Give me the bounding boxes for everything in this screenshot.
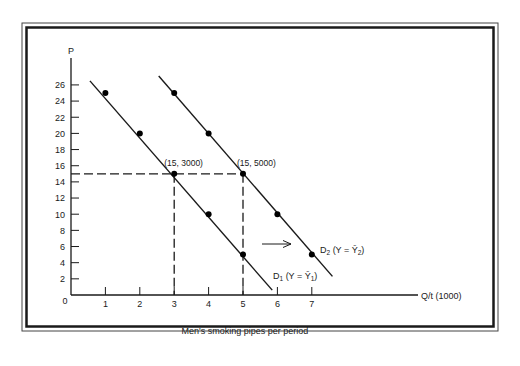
y-tick-label: 12 xyxy=(55,193,65,203)
inner-frame xyxy=(27,28,494,327)
x-tick-label: 4 xyxy=(206,299,211,309)
point-annotation: (15, 3000) xyxy=(164,158,203,168)
d1-label: D1 (Y = Ȳ1) xyxy=(273,271,317,282)
y-tick-label: 22 xyxy=(55,113,65,123)
x-tick-label: 3 xyxy=(172,299,177,309)
demand-curve-d2 xyxy=(159,76,333,276)
point-annotation: (15, 5000) xyxy=(237,158,276,168)
data-point xyxy=(240,252,246,258)
y-axis-label: P xyxy=(68,46,74,56)
x-axis-caption: Men's smoking pipes per period xyxy=(182,326,309,336)
data-point xyxy=(171,171,177,177)
y-tick-label: 8 xyxy=(60,226,65,236)
y-tick-label: 16 xyxy=(55,161,65,171)
y-tick-label: 18 xyxy=(55,145,65,155)
x-axis-label: Q/t (1000) xyxy=(421,291,462,301)
x-tick-label: 2 xyxy=(137,299,142,309)
y-tick-label: 2 xyxy=(60,274,65,284)
data-point xyxy=(102,90,108,96)
y-tick-label: 10 xyxy=(55,210,65,220)
data-point xyxy=(274,211,280,217)
x-tick-label: 7 xyxy=(309,299,314,309)
y-tick-label: 24 xyxy=(55,96,65,106)
x-tick-label: 1 xyxy=(103,299,108,309)
outer-frame xyxy=(22,23,498,331)
demand-shift-chart: PQ/t (1000)02468101214161820222426123456… xyxy=(0,0,520,366)
origin-label: 0 xyxy=(62,296,67,306)
y-tick-label: 26 xyxy=(55,80,65,90)
data-point xyxy=(309,252,315,258)
plot-area: PQ/t (1000)02468101214161820222426123456… xyxy=(55,46,462,309)
y-tick-label: 6 xyxy=(60,242,65,252)
data-point xyxy=(240,171,246,177)
y-tick-label: 4 xyxy=(60,258,65,268)
data-point xyxy=(206,211,212,217)
y-tick-label: 14 xyxy=(55,177,65,187)
y-tick-label: 20 xyxy=(55,129,65,139)
x-tick-label: 5 xyxy=(240,299,245,309)
x-tick-label: 6 xyxy=(275,299,280,309)
data-point xyxy=(171,90,177,96)
demand-curve-d1 xyxy=(90,81,272,290)
data-point xyxy=(206,130,212,136)
d2-label: D2 (Y = Ȳ2) xyxy=(320,245,364,256)
data-point xyxy=(137,130,143,136)
